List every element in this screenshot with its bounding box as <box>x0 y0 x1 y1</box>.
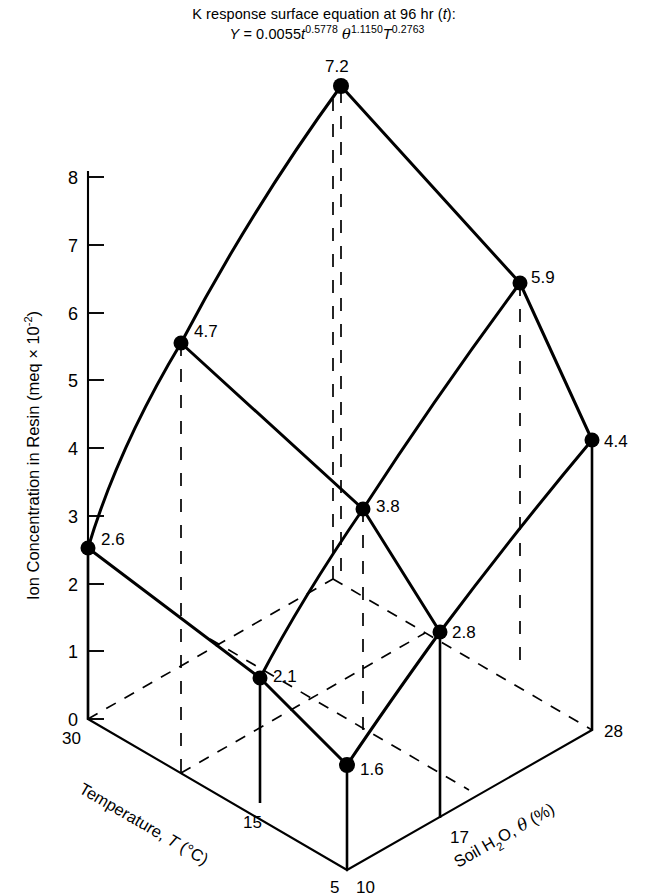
surface-curve-temp-15 <box>260 283 520 678</box>
response-surface-mesh <box>88 86 592 765</box>
y-axis-tick-label-0: 0 <box>68 710 78 730</box>
moisture-value-10: 10 <box>356 878 375 896</box>
data-point-marker-4-7 <box>174 336 189 351</box>
data-point-marker-2-1 <box>253 671 268 686</box>
data-point-marker-2-6 <box>81 541 96 556</box>
y-axis-tick-label-5: 5 <box>68 371 78 391</box>
data-point-marker-7-2 <box>333 78 349 94</box>
data-point-marker-4-4 <box>585 433 600 448</box>
surface-curve-moisture-10 <box>88 548 347 765</box>
data-point-label-3-8: 3.8 <box>376 497 400 516</box>
surface-curve-temp-30 <box>88 86 341 548</box>
plot-canvas: 8 7 6 5 4 3 2 1 0 <box>0 0 648 896</box>
data-point-label-4-4: 4.4 <box>604 432 628 451</box>
y-axis: 8 7 6 5 4 3 2 1 0 <box>68 168 104 730</box>
base-hidden-edge-back-left <box>88 579 333 719</box>
y-axis-tick-label-6: 6 <box>68 304 78 324</box>
svg-text:Temperature, T (°C): Temperature, T (°C) <box>76 779 211 868</box>
data-point-label-7-2: 7.2 <box>325 57 349 76</box>
response-surface-figure: K response surface equation at 96 hr (t)… <box>0 0 648 896</box>
base-plane <box>88 99 592 870</box>
moisture-axis-label-units: (%) <box>522 799 557 830</box>
node-drop-lines <box>181 90 520 818</box>
temperature-value-15: 15 <box>243 813 262 832</box>
temperature-axis-label: Temperature, T (°C) <box>76 779 211 868</box>
data-point-label-1-6: 1.6 <box>360 760 384 779</box>
surface-curve-temp-5 <box>347 440 592 765</box>
data-point-label-2-6: 2.6 <box>101 530 125 549</box>
data-point-label-2-8: 2.8 <box>452 623 476 642</box>
moisture-value-28: 28 <box>604 722 623 741</box>
y-axis-tick-label-8: 8 <box>68 168 78 188</box>
data-point-labels: 2.6 4.7 7.2 2.1 3.8 5.9 1.6 2.8 4.4 <box>101 57 628 779</box>
y-axis-tick-label-7: 7 <box>68 236 78 256</box>
y-axis-tick-label-4: 4 <box>68 439 78 459</box>
temperature-axis-label-prefix: Temperature, <box>76 779 173 846</box>
y-axis-tick-label-2: 2 <box>68 575 78 595</box>
temperature-value-5: 5 <box>330 878 339 896</box>
y-axis-tick-label-3: 3 <box>68 507 78 527</box>
data-point-marker-1-6 <box>339 757 355 773</box>
data-point-marker-3-8 <box>356 502 371 517</box>
data-point-marker-5-9 <box>513 276 528 291</box>
moisture-value-17: 17 <box>450 828 469 847</box>
y-axis-tick-label-1: 1 <box>68 642 78 662</box>
data-point-marker-2-8 <box>433 625 448 640</box>
data-point-markers <box>81 78 600 773</box>
data-point-label-4-7: 4.7 <box>194 322 218 341</box>
temperature-value-30: 30 <box>62 729 81 748</box>
data-point-label-5-9: 5.9 <box>531 268 555 287</box>
surface-curve-moisture-28 <box>341 86 592 440</box>
temperature-axis-label-units: (°C) <box>173 835 212 868</box>
data-point-label-2-1: 2.1 <box>273 667 297 686</box>
temperature-axis-line <box>88 719 347 870</box>
